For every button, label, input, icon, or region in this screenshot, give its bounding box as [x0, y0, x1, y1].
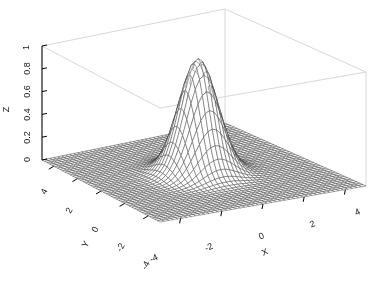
surface-plot-figure: 1 0.8 0.6 0.4 0.2 0 Z 4 2 0 -2 -4 Y -4 -… — [0, 0, 373, 283]
surface-plot-canvas — [0, 0, 373, 283]
